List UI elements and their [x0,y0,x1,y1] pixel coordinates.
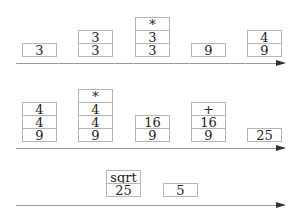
stack-cell: sqrt [106,170,141,184]
stack-step: 25 [247,128,282,142]
time-arrow [16,205,284,206]
stack-step: 5 [163,183,198,197]
stack-cell: 4 [22,102,57,116]
stack-cell: 9 [247,43,282,57]
time-arrow [16,148,284,149]
stack-cell: 3 [135,30,170,44]
stack-cell: 9 [191,43,226,57]
stack-step: 169 [135,115,170,142]
stack-step: 449 [22,102,57,142]
stack-step: 49 [247,30,282,57]
stack-cell: 4 [22,115,57,129]
stack-cell: 9 [135,128,170,142]
stack-cell: + [191,102,226,116]
stack-step: 9 [191,43,226,57]
stack-cell: 25 [247,128,282,142]
stack-cell: 3 [78,30,113,44]
stack-cell: 4 [78,115,113,129]
stack-cell: 4 [247,30,282,44]
stack-step: 3 [22,43,57,57]
stack-step: 33 [78,30,113,57]
stack-step: sqrt25 [106,170,141,197]
time-arrow [16,63,284,64]
stack-step: +169 [191,102,226,142]
stack-cell: 9 [78,128,113,142]
stack-cell: 9 [191,128,226,142]
stack-cell: 5 [163,183,198,197]
stack-cell: 3 [135,43,170,57]
arrowhead-icon [276,60,286,66]
stack-cell: 16 [135,115,170,129]
stack-cell: 3 [22,43,57,57]
stack-step: *33 [135,17,170,57]
stack-cell: * [78,89,113,103]
stack-cell: * [135,17,170,31]
arrowhead-icon [276,145,286,151]
stack-cell: 9 [22,128,57,142]
stack-cell: 25 [106,183,141,197]
arrowhead-icon [276,202,286,208]
stack-step: *449 [78,89,113,142]
stack-cell: 16 [191,115,226,129]
stack-cell: 3 [78,43,113,57]
stack-cell: 4 [78,102,113,116]
